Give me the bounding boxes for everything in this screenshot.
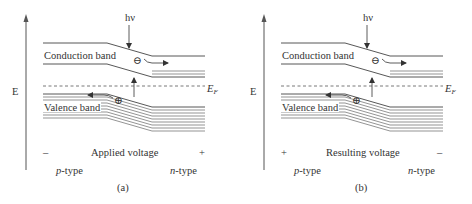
conduction-band-bottom-edge xyxy=(43,64,205,77)
panel-caption: (b) xyxy=(355,182,368,194)
fermi-level-label: EF xyxy=(444,83,456,96)
electron-symbol: ⊖ xyxy=(133,55,142,66)
axis-arrowhead-icon xyxy=(262,14,267,22)
conduction-band-label: Conduction band xyxy=(282,50,355,61)
right-polarity-sign: + xyxy=(199,147,205,158)
panel-caption: (a) xyxy=(117,182,129,194)
axis-arrowhead-icon xyxy=(24,14,29,22)
conduction-band-label: Conduction band xyxy=(44,50,117,61)
left-polarity-sign: + xyxy=(281,147,287,158)
conduction-band-bottom-edge xyxy=(281,64,443,77)
left-polarity-sign: – xyxy=(42,147,49,158)
electron-drift-arrow-icon xyxy=(382,59,406,63)
pn-junction-band-diagram: E Conduction band hν ⊖ EF Valence band ⊕ xyxy=(0,0,472,204)
hole-symbol: ⊕ xyxy=(352,95,361,106)
voltage-label: Applied voltage xyxy=(91,147,159,158)
valence-band-label: Valence band xyxy=(44,102,101,113)
photon-label: hν xyxy=(363,12,373,23)
panel-b: E Conduction band hν ⊖ EF Valence band ⊕… xyxy=(250,12,456,194)
energy-axis-label: E xyxy=(12,86,18,97)
p-type-label: p-type xyxy=(293,165,321,176)
electron-symbol: ⊖ xyxy=(371,55,380,66)
electron-drift-arrow-icon xyxy=(144,59,168,63)
p-type-label: p-type xyxy=(55,165,83,176)
n-type-label: n-type xyxy=(170,165,197,176)
panel-a: E Conduction band hν ⊖ EF Valence band ⊕ xyxy=(12,12,218,194)
right-polarity-sign: – xyxy=(436,147,443,158)
n-type-label: n-type xyxy=(408,165,435,176)
hole-symbol: ⊕ xyxy=(114,95,123,106)
valence-band-label: Valence band xyxy=(282,102,339,113)
voltage-label: Resulting voltage xyxy=(326,147,400,158)
fermi-level-label: EF xyxy=(206,83,218,96)
energy-axis-label: E xyxy=(250,86,256,97)
photon-label: hν xyxy=(125,12,135,23)
